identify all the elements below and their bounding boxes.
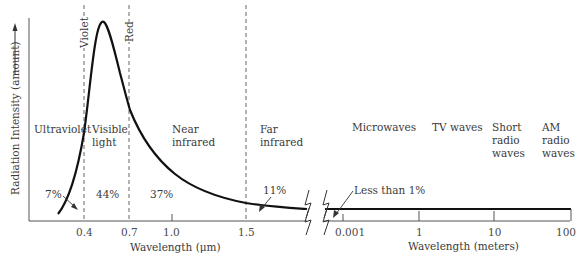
percent-microwaves: Less than 1% bbox=[354, 184, 425, 196]
x-axis-label-right: Wavelength (meters) bbox=[408, 240, 519, 252]
region-far-line1: Far bbox=[260, 123, 279, 135]
y-axis-label: Radiation Intensity (amount) bbox=[9, 41, 21, 195]
tick-label-10: 10 bbox=[488, 226, 501, 238]
region-am-line2: radio bbox=[542, 134, 570, 146]
region-short-line3: waves bbox=[492, 147, 525, 159]
tick-label-1.0: 1.0 bbox=[163, 226, 180, 238]
region-ultraviolet: Ultraviolet bbox=[34, 123, 92, 135]
red-label: Red bbox=[123, 21, 135, 42]
region-far-line2: infrared bbox=[260, 136, 304, 148]
region-near-line1: Near bbox=[172, 123, 200, 135]
region-short-line2: radio bbox=[492, 134, 520, 146]
pointer-arrow-microwaves-icon bbox=[333, 191, 353, 218]
tick-label-1.5: 1.5 bbox=[238, 226, 255, 238]
x-axis-label-left: Wavelength (μm) bbox=[130, 241, 221, 253]
region-visible-line1: Visible bbox=[91, 123, 128, 135]
percent-far-infrared: 11% bbox=[263, 184, 286, 196]
violet-label: Violet bbox=[78, 16, 90, 49]
tick-label-1: 1 bbox=[416, 226, 423, 238]
tick-label-0.4: 0.4 bbox=[76, 226, 93, 238]
region-microwaves: Microwaves bbox=[352, 121, 416, 133]
region-near-line2: infrared bbox=[172, 136, 216, 148]
tick-label-0.7: 0.7 bbox=[121, 226, 138, 238]
region-am-line1: AM bbox=[541, 121, 561, 133]
region-am-line3: waves bbox=[542, 147, 575, 159]
pointer-arrow-far-infrared-icon bbox=[259, 197, 271, 212]
percent-ultraviolet: 7% bbox=[45, 188, 62, 200]
axis-break-left-icon bbox=[305, 190, 311, 235]
region-visible-line2: light bbox=[92, 136, 117, 148]
percent-near-infrared: 37% bbox=[150, 188, 173, 200]
tick-label-100: 100 bbox=[556, 226, 576, 238]
tick-label-0.001: 0.001 bbox=[335, 226, 365, 238]
region-short-line1: Short bbox=[492, 121, 522, 133]
axis-break-right-icon bbox=[323, 190, 329, 235]
region-tv-waves: TV waves bbox=[432, 121, 483, 133]
radiation-spectrum-chart: Radiation Intensity (amount) Violet Red … bbox=[0, 0, 587, 265]
percent-visible: 44% bbox=[96, 188, 119, 200]
